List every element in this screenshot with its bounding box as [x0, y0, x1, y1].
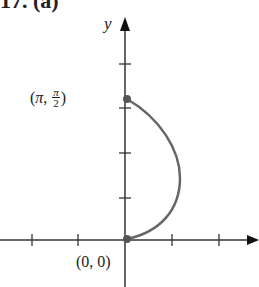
x-axis-arrow-icon	[247, 235, 259, 245]
y-axis-arrow-icon	[120, 17, 130, 31]
point-x: π	[35, 89, 43, 107]
point-top	[123, 95, 131, 103]
curve-path	[127, 99, 180, 239]
point-origin-label: (0, 0)	[76, 253, 111, 271]
point-origin	[123, 235, 131, 243]
fraction-denominator: 2	[53, 98, 59, 108]
plot-canvas	[0, 0, 259, 287]
y-axis-label: y	[104, 14, 112, 34]
fraction: π 2	[52, 87, 60, 108]
point-top-label: ( π , π 2 )	[30, 87, 66, 108]
paren-close: )	[61, 89, 66, 107]
separator: ,	[43, 89, 51, 107]
